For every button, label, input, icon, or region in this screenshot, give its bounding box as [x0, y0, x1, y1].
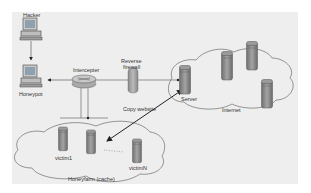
server-icon — [180, 66, 191, 95]
internet-server-icon-1 — [222, 52, 233, 81]
intercepter-node[interactable]: Intercepter — [72, 67, 99, 88]
intercepter-label: Intercepter — [73, 67, 99, 73]
internet-label: Internet — [222, 107, 241, 113]
firewall-icon — [128, 68, 138, 94]
victim1-server-icon — [58, 127, 67, 151]
internet-server-icon-2 — [247, 42, 258, 71]
honeypot-label: Honeypot — [19, 91, 43, 97]
internet-server-icon-3 — [262, 80, 273, 109]
firewall-label: Reversefirewall — [121, 58, 141, 70]
server-label: Server — [181, 96, 197, 102]
honeyfarm-label: Honeyfarm (cache) — [68, 176, 115, 182]
victimN-label: victimN — [129, 165, 147, 171]
copy-website-label: Copy website — [123, 106, 156, 112]
network-diagram: Hacker Honeypot Intercepter Reversefirew… — [0, 0, 311, 193]
hacker-label: Hacker — [23, 12, 41, 18]
victim2-server-icon — [86, 130, 95, 154]
victim1-label: victim1 — [55, 155, 72, 161]
internet-junction — [177, 79, 179, 81]
victimN-server-icon — [132, 139, 141, 163]
bus-junction — [87, 117, 89, 119]
